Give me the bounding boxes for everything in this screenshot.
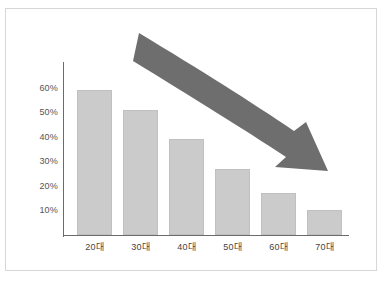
x-tick-label-60s: 60대 <box>261 242 296 253</box>
bar-40s <box>169 139 204 235</box>
y-tick-label-40: 40% <box>16 132 58 142</box>
bar-20s <box>77 90 112 235</box>
bar-70s <box>307 210 342 235</box>
x-axis-line <box>63 235 349 236</box>
y-tick-label-50: 50% <box>16 107 58 117</box>
x-tick-label-70s: 70대 <box>307 242 342 253</box>
y-tick-40: 40% <box>10 132 58 142</box>
y-tick-10: 10% <box>10 205 58 215</box>
y-tick-50: 50% <box>10 107 58 117</box>
chart-figure: 60% 50% 40% 30% 20% 10% <box>0 0 383 292</box>
bar-30s <box>123 110 158 235</box>
x-tick-label-50s: 50대 <box>215 242 250 253</box>
y-tick-label-20: 20% <box>16 181 58 191</box>
y-axis-line <box>63 62 64 237</box>
arrow-shape <box>133 33 328 171</box>
bar-60s <box>261 193 296 235</box>
x-tick-label-20s: 20대 <box>77 242 112 253</box>
y-tick-30: 30% <box>10 156 58 166</box>
y-tick-label-10: 10% <box>16 205 58 215</box>
y-tick-label-30: 30% <box>16 156 58 166</box>
x-tick-label-30s: 30대 <box>123 242 158 253</box>
plot-area: 60% 50% 40% 30% 20% 10% <box>6 9 378 272</box>
y-tick-20: 20% <box>10 181 58 191</box>
bar-50s <box>215 169 250 235</box>
y-tick-label-60: 60% <box>16 83 58 93</box>
x-tick-label-40s: 40대 <box>169 242 204 253</box>
y-tick-60: 60% <box>10 83 58 93</box>
chart-frame: 60% 50% 40% 30% 20% 10% <box>5 8 377 271</box>
